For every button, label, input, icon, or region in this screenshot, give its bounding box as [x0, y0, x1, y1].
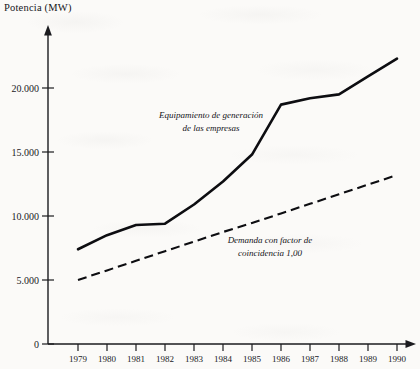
x-tick-label: 1989 — [359, 354, 378, 364]
x-tick-label: 1988 — [330, 354, 349, 364]
annotation-demanda-line2: coincidencia 1,00 — [238, 248, 302, 258]
annotation-demanda-line1: Demanda con factor de — [227, 235, 313, 245]
y-tick-label: 15.000 — [12, 147, 40, 158]
x-tick-label: 1980 — [98, 354, 117, 364]
x-tick-label: 1985 — [243, 354, 262, 364]
x-axis-arrowhead — [406, 340, 417, 348]
x-tick-label: 1987 — [301, 354, 320, 364]
series-line-equipamiento — [78, 59, 397, 250]
x-tick-label: 1983 — [185, 354, 204, 364]
y-tick-label: 20.000 — [12, 83, 40, 94]
y-tick-label: 5.000 — [17, 275, 40, 286]
y-tick-label: 0 — [34, 339, 39, 350]
annotation-equipamiento-line2: de las empresas — [182, 123, 240, 133]
y-tick-label: 10.000 — [12, 211, 40, 222]
x-tick-label: 1986 — [272, 354, 291, 364]
chart-plot-area: 0 5.000 10.000 15.000 20.000 1979 1980 1… — [0, 0, 420, 369]
annotation-equipamiento: Equipamiento de generación de las empres… — [158, 110, 263, 133]
x-tick-label: 1979 — [69, 354, 88, 364]
x-tick-label: 1984 — [214, 354, 233, 364]
x-tick-label: 1982 — [156, 354, 174, 364]
x-axis — [48, 340, 416, 348]
y-axis-title: Potencia (MW) — [4, 2, 72, 13]
y-axis-arrowhead — [44, 25, 52, 36]
annotation-demanda: Demanda con factor de coincidencia 1,00 — [227, 235, 313, 258]
x-tick-label: 1990 — [388, 354, 407, 364]
x-tick-label: 1981 — [127, 354, 145, 364]
y-axis — [44, 25, 52, 344]
annotation-equipamiento-line1: Equipamiento de generación — [158, 110, 263, 120]
chart-figure: Potencia (MW) 0 5.000 10.000 15.000 20.0… — [0, 0, 420, 369]
x-axis-ticks: 1979 1980 1981 1982 1983 1984 1985 1986 … — [69, 344, 407, 364]
